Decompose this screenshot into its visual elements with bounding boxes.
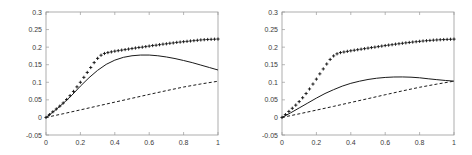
y-tick-label: 0.25 (28, 26, 42, 33)
x-tick-label: 1 (216, 139, 220, 146)
x-tick-label: 0.2 (312, 139, 322, 146)
x-tick-label: 0.4 (346, 139, 356, 146)
axes-frame (46, 12, 218, 135)
series-solid-line (282, 77, 454, 117)
y-tick-label: 0.1 (268, 79, 278, 86)
figure-root: -0.0500.050.10.150.20.250.300.20.40.60.8… (0, 0, 472, 155)
x-tick-label: 0.2 (76, 139, 86, 146)
y-tick-label: 0.1 (32, 79, 42, 86)
x-tick-label: 0 (280, 139, 284, 146)
series-marker-points (44, 37, 219, 119)
series-marker-points (280, 38, 455, 119)
series-dashed-line (282, 81, 454, 117)
y-tick-label: 0 (274, 114, 278, 121)
x-tick-label: 1 (452, 139, 456, 146)
chart-panel-left: -0.0500.050.10.150.20.250.300.20.40.60.8… (0, 0, 236, 155)
y-tick-label: 0.3 (32, 9, 42, 16)
series-dashed-line (46, 81, 218, 117)
y-tick-label: 0.2 (268, 44, 278, 51)
chart-panel-right: -0.0500.050.10.150.20.250.300.20.40.60.8… (236, 0, 472, 155)
y-tick-label: 0 (38, 114, 42, 121)
y-tick-label: 0.3 (268, 9, 278, 16)
y-tick-label: -0.05 (26, 132, 42, 139)
series-solid-line (46, 55, 218, 117)
x-tick-label: 0 (44, 139, 48, 146)
x-tick-label: 0.4 (110, 139, 120, 146)
axes-frame (282, 12, 454, 135)
y-tick-label: 0.15 (28, 61, 42, 68)
y-tick-label: 0.05 (28, 96, 42, 103)
x-tick-label: 0.8 (179, 139, 189, 146)
x-tick-label: 0.6 (144, 139, 154, 146)
y-tick-label: 0.25 (264, 26, 278, 33)
y-tick-label: 0.2 (32, 44, 42, 51)
plot-canvas-right: -0.0500.050.10.150.20.250.300.20.40.60.8… (236, 0, 472, 155)
plot-canvas-left: -0.0500.050.10.150.20.250.300.20.40.60.8… (0, 0, 236, 155)
x-tick-label: 0.8 (415, 139, 425, 146)
x-tick-label: 0.6 (380, 139, 390, 146)
y-tick-label: -0.05 (262, 132, 278, 139)
y-tick-label: 0.05 (264, 96, 278, 103)
y-tick-label: 0.15 (264, 61, 278, 68)
